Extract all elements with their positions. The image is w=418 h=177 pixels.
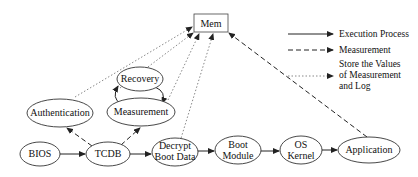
authentication-node: Authentication <box>27 99 93 127</box>
os-kernel-node: OS Kernel <box>280 136 322 164</box>
boot-module-node: Boot Module <box>215 136 261 164</box>
tcdb-label: TCDB <box>95 148 122 159</box>
legend-store-label-line2: of Measurement <box>339 70 401 80</box>
os-label-line1: OS <box>295 139 308 150</box>
legend-store-label-line1: Store the Values <box>339 59 401 69</box>
measurement-node: Measurement <box>107 98 175 126</box>
authentication-label: Authentication <box>30 107 89 118</box>
edge-measurement-to-mem <box>168 34 199 100</box>
os-label-line2: Kernel <box>287 150 314 161</box>
edge-tcdb-to-authentication <box>67 128 92 146</box>
boot-label-line2: Module <box>222 150 254 161</box>
legend: Execution Process Measurement Store the … <box>288 29 409 91</box>
decrypt-label-line2: Boot Data <box>155 151 196 162</box>
bios-node: BIOS <box>20 142 60 166</box>
application-label: Application <box>345 144 392 155</box>
legend-store-label-line3: and Log <box>339 81 371 91</box>
measurement-label: Measurement <box>114 106 169 117</box>
recovery-node: Recovery <box>117 67 163 91</box>
legend-execution-label: Execution Process <box>339 29 409 39</box>
boot-measurement-diagram: Mem Recovery Authentication Measurement … <box>0 0 418 177</box>
bios-label: BIOS <box>29 148 52 159</box>
tcdb-node: TCDB <box>86 142 130 166</box>
edge-tcdb-to-measurement <box>121 128 140 145</box>
application-node: Application <box>338 137 400 163</box>
boot-label-line1: Boot <box>228 139 248 150</box>
recovery-label: Recovery <box>121 73 159 84</box>
legend-measurement-label: Measurement <box>339 45 391 55</box>
mem-node: Mem <box>194 14 228 32</box>
decrypt-label-line1: Decrypt <box>159 140 191 151</box>
mem-label: Mem <box>200 18 221 29</box>
decrypt-boot-data-node: Decrypt Boot Data <box>152 138 198 166</box>
diagram-svg: Mem Recovery Authentication Measurement … <box>0 0 418 177</box>
edge-decrypt-to-mem <box>178 34 213 148</box>
